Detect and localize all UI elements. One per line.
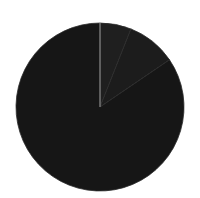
pie-chart-canvas: [0, 0, 200, 198]
pie-chart: [0, 0, 200, 198]
